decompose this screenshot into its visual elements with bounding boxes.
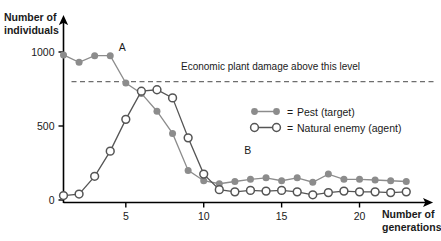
chart-container: Number of individuals Number of generati… (0, 0, 441, 241)
data-point (263, 174, 270, 181)
x-tick-label-10: 10 (198, 210, 210, 222)
data-point (309, 179, 316, 186)
data-point (356, 188, 364, 196)
data-point (340, 176, 347, 183)
data-point (122, 80, 129, 87)
y-axis-title: Number of individuals (4, 11, 59, 36)
legend-marker-enemy-left (251, 124, 259, 132)
data-point (402, 188, 410, 196)
data-point (107, 52, 114, 59)
data-point (91, 172, 99, 180)
data-point (60, 192, 68, 200)
population-dynamics-chart: Number of individuals Number of generati… (0, 0, 441, 241)
data-point (185, 167, 192, 174)
chart-legend: = Pest (target) = Natural enemy (agent) (251, 106, 402, 134)
data-point (169, 94, 177, 102)
data-point (324, 189, 332, 197)
legend-marker-pest-right (273, 108, 280, 115)
data-point (372, 177, 379, 184)
data-point (138, 87, 146, 95)
data-point (403, 178, 410, 185)
data-point (231, 188, 239, 196)
legend-entry-pest: = Pest (target) (251, 106, 355, 118)
legend-marker-enemy-right (273, 124, 281, 132)
data-point (231, 178, 238, 185)
data-point (294, 174, 301, 181)
data-point (215, 186, 223, 194)
data-point (371, 188, 379, 196)
legend-text-enemy: Natural enemy (agent) (297, 122, 401, 134)
economic-threshold-label: Economic plant damage above this level (181, 61, 360, 72)
y-tick-label-0: 0 (49, 194, 55, 206)
data-point (387, 177, 394, 184)
data-point (247, 186, 255, 194)
data-point (340, 187, 348, 195)
legend-label-pest: = (287, 106, 293, 118)
series-line (64, 55, 407, 184)
y-tick-label-1000: 1000 (31, 46, 55, 58)
legend-marker-pest-left (251, 108, 258, 115)
x-axis-title-line1: Number of (382, 208, 435, 220)
y-axis-title-line1: Number of (4, 11, 57, 23)
data-point (325, 171, 332, 178)
annotation-a: A (119, 41, 126, 53)
x-axis-title: Number of generations (382, 208, 441, 233)
y-tick-label-500: 500 (37, 120, 55, 132)
data-point (278, 186, 286, 194)
data-point (60, 51, 67, 58)
data-point (169, 130, 176, 137)
x-tick-label-5: 5 (123, 210, 129, 222)
data-point (356, 176, 363, 183)
data-point (247, 176, 254, 183)
data-point (153, 108, 160, 115)
y-axis-title-line2: individuals (4, 24, 59, 36)
data-point (262, 187, 270, 195)
data-point (184, 134, 192, 142)
data-point (293, 188, 301, 196)
legend-text-pest: Pest (target) (297, 106, 355, 118)
x-tick-label-15: 15 (276, 210, 288, 222)
data-point (106, 147, 114, 155)
data-point (309, 191, 317, 199)
legend-entry-enemy: = Natural enemy (agent) (251, 122, 402, 134)
x-axis-title-line2: generations (382, 221, 441, 233)
data-point (91, 52, 98, 59)
data-point (387, 189, 395, 197)
y-axis-ticks: 05001000 (31, 46, 63, 206)
x-axis-ticks: 5101520 (123, 203, 366, 222)
data-point (153, 86, 161, 94)
data-point (200, 170, 208, 178)
data-point (122, 115, 130, 123)
annotation-b: B (244, 144, 251, 156)
data-point (76, 59, 83, 66)
data-point (278, 177, 285, 184)
legend-label-enemy: = (287, 122, 293, 134)
x-tick-label-20: 20 (354, 210, 366, 222)
data-point (75, 190, 83, 198)
